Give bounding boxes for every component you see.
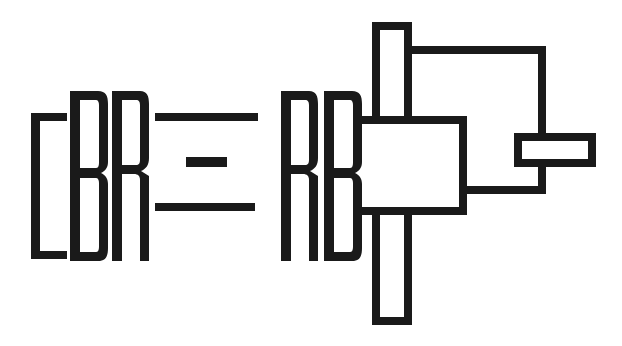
center-body-rectangle xyxy=(358,120,463,211)
letter-b-left-glyph xyxy=(70,91,108,261)
logo-artwork: [BR = RB] xyxy=(0,0,622,346)
equals-top-bar xyxy=(155,113,258,121)
right-cross-bar-rectangle xyxy=(518,137,592,163)
equals-middle-dash xyxy=(186,157,227,167)
equals-bottom-bar xyxy=(155,203,255,211)
logo-canvas: [BR = RB] xyxy=(0,0,622,346)
abstract-bracket-assembly xyxy=(358,26,592,321)
letter-b-right-glyph xyxy=(324,91,362,261)
left-bracket-icon xyxy=(31,113,67,259)
top-stem-rectangle xyxy=(376,26,408,120)
equals-sign-glyph xyxy=(155,113,258,211)
lower-return-path xyxy=(463,163,542,190)
letter-r-right-glyph xyxy=(281,91,318,261)
bottom-stem-rectangle xyxy=(376,211,408,321)
letter-r-left-glyph xyxy=(112,91,149,261)
